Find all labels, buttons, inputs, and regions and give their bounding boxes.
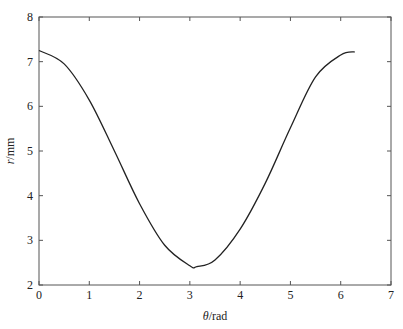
y-axis-label: r/mm [3,137,17,164]
data-line [39,51,355,268]
x-axis-label: θ/rad [203,309,228,323]
y-tick-label: 8 [27,10,33,24]
y-tick-label: 6 [27,99,33,113]
x-axis-unit: /rad [209,309,228,323]
x-tick-label: 6 [338,288,344,302]
x-tick-label: 0 [36,288,42,302]
y-tick-label: 3 [27,233,33,247]
x-tick-label: 5 [287,288,293,302]
x-tick-label: 2 [137,288,143,302]
x-tick-label: 3 [187,288,193,302]
x-tick-label: 7 [388,288,394,302]
y-tick-label: 7 [27,55,33,69]
y-tick-label: 5 [27,144,33,158]
line-chart: 01234567 2345678 θ/rad r/mm [0,0,403,329]
y-tick-label: 2 [27,278,33,292]
y-axis-ticks: 2345678 [27,10,391,292]
y-tick-label: 4 [27,189,33,203]
x-tick-label: 4 [237,288,243,302]
x-tick-label: 1 [86,288,92,302]
y-axis-unit: /mm [3,137,17,160]
